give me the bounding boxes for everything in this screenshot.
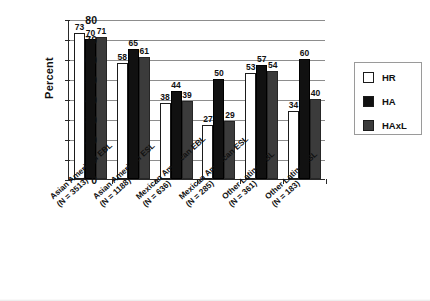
bar-value-label: 39 xyxy=(174,90,200,100)
bar-value-label: 40 xyxy=(303,88,329,98)
bar-value-label: 61 xyxy=(131,46,157,56)
legend-swatch-icon xyxy=(363,96,374,107)
y-axis-tick-label: 50 xyxy=(63,74,97,86)
legend-swatch-icon xyxy=(363,120,374,131)
bar-value-label: 60 xyxy=(292,48,318,58)
bar-group: 346040 xyxy=(283,20,326,179)
legend-label: HAxL xyxy=(382,120,407,132)
y-axis-tick-label: 70 xyxy=(63,34,97,46)
y-axis-tick-label: 30 xyxy=(63,114,97,126)
y-axis-tick-label: 40 xyxy=(63,94,97,106)
y-axis-title: Percent xyxy=(43,43,55,113)
y-axis-tick-label: 20 xyxy=(63,134,97,146)
x-axis-tick-labels: Asian American EBL(N = 3513)Asian Americ… xyxy=(0,184,430,301)
bar-value-label: 54 xyxy=(260,60,286,70)
bar-value-label: 50 xyxy=(206,68,232,78)
y-axis-tick-label: 80 xyxy=(63,14,97,26)
y-axis-tick-label: 60 xyxy=(63,54,97,66)
legend-swatch-icon xyxy=(363,72,374,83)
bar-value-label: 29 xyxy=(217,110,243,120)
legend-label: HA xyxy=(382,96,396,108)
legend: HRHAHAxL xyxy=(354,62,422,135)
bar-chart: Percent 73707158656138443927502953575434… xyxy=(0,0,430,301)
bar-value-label: 44 xyxy=(163,80,189,90)
legend-label: HR xyxy=(382,72,396,84)
